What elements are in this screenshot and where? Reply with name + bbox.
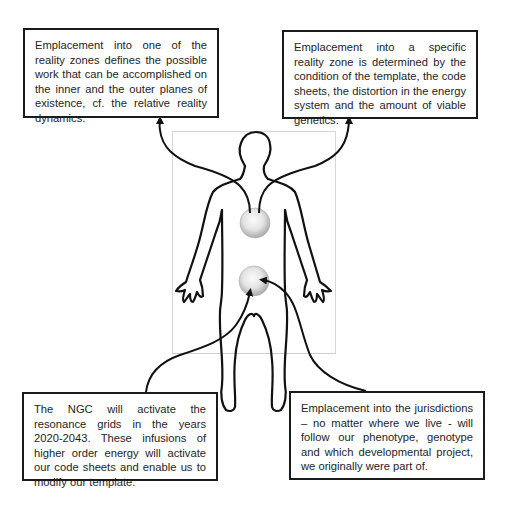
annotation-text: Emplacement into the jurisdictions – no …	[301, 401, 473, 474]
annotation-box-bottom-right: Emplacement into the jurisdictions – no …	[289, 391, 485, 480]
annotation-text: The NGC will activate the resonance grid…	[34, 402, 206, 490]
connector-top-left	[160, 120, 250, 213]
annotation-text: Emplacement into one of the reality zone…	[35, 38, 207, 126]
annotation-text: Emplacement into a specific reality zone…	[294, 40, 466, 128]
annotation-box-bottom-left: The NGC will activate the resonance grid…	[22, 392, 218, 481]
connector-top-right	[259, 120, 349, 213]
annotation-box-top-right: Emplacement into a specific reality zone…	[282, 30, 478, 119]
annotation-box-top-left: Emplacement into one of the reality zone…	[23, 28, 219, 118]
upper-sphere	[240, 208, 270, 238]
connector-bottom-right	[263, 280, 366, 391]
